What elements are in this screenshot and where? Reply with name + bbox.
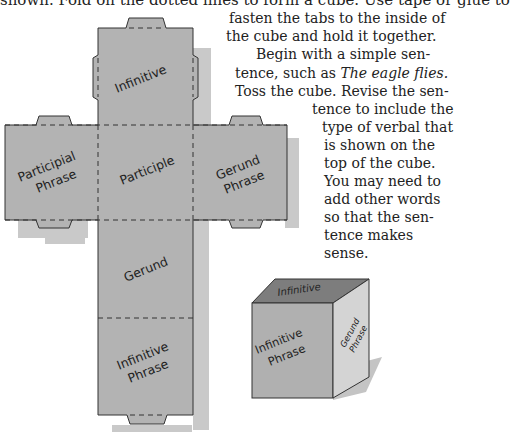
cube-diagram: Infinitive Participial Phrase Participle…	[0, 0, 441, 432]
